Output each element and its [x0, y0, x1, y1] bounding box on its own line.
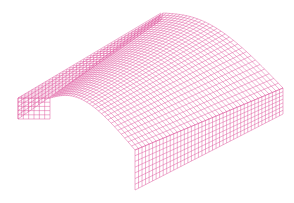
- barrel-vault-wireframe: [0, 0, 294, 203]
- vault-surface-mesh: [50, 13, 283, 150]
- figure-canvas: [0, 0, 294, 203]
